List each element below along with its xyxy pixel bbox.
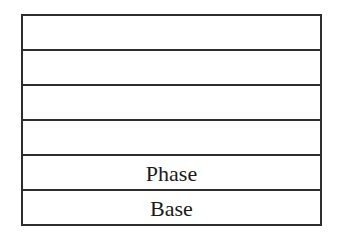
layer-2 [23, 51, 320, 86]
layer-base: Base [23, 191, 320, 224]
layer-phase: Phase [23, 156, 320, 191]
layer-4 [23, 121, 320, 156]
layer-3 [23, 86, 320, 121]
layer-stack-diagram: Phase Base [21, 14, 322, 226]
layer-phase-label: Phase [146, 163, 197, 185]
layer-1 [23, 16, 320, 51]
layer-base-label: Base [150, 198, 193, 220]
